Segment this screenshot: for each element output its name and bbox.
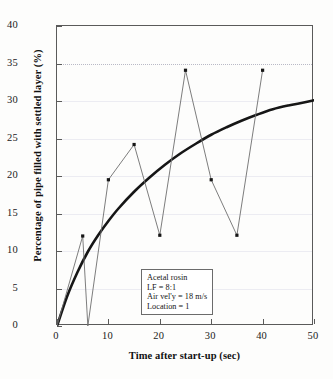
y-tick-20: [57, 176, 62, 177]
y-tick-25: [57, 139, 62, 140]
y-tick-15: [57, 214, 62, 215]
y-tick-label-0: 0: [0, 320, 18, 330]
y-tick-10: [57, 251, 62, 252]
y-tick-label-5: 5: [0, 283, 18, 293]
figure: Percentage of pipe filled with settled l…: [0, 0, 333, 379]
data-point-marker: [235, 234, 238, 237]
y-tick-label-10: 10: [0, 245, 18, 255]
y-tick-label-20: 20: [0, 170, 18, 180]
x-tick-label-50: 50: [293, 331, 333, 341]
data-point-marker: [184, 69, 187, 72]
x-tick-label-10: 10: [87, 331, 127, 341]
data-point-marker: [133, 143, 136, 146]
y-tick-label-40: 40: [0, 20, 18, 30]
data-point-marker: [81, 234, 84, 237]
x-tick-label-0: 0: [36, 331, 76, 341]
y-tick-label-25: 25: [0, 133, 18, 143]
x-tick-label-30: 30: [190, 331, 230, 341]
x-tick-label-40: 40: [242, 331, 282, 341]
x-axis-title: Time after start-up (sec): [56, 350, 313, 361]
data-point-marker: [210, 178, 213, 181]
annotation-line-3: Air vel'y = 18 m/s: [147, 292, 207, 302]
y-tick-label-15: 15: [0, 208, 18, 218]
y-axis-title: Percentage of pipe filled with settled l…: [32, 31, 43, 281]
data-point-marker: [158, 234, 161, 237]
x-tick-50: [314, 319, 315, 324]
x-tick-20: [160, 319, 161, 324]
conditions-annotation-box: Acetal rosinLF = 8:1Air vel'y = 18 m/sLo…: [141, 269, 213, 315]
x-tick-40: [263, 319, 264, 324]
annotation-line-1: Acetal rosin: [147, 273, 207, 283]
y-tick-label-30: 30: [0, 95, 18, 105]
y-tick-40: [57, 26, 62, 27]
y-tick-0: [57, 326, 62, 327]
x-tick-10: [108, 319, 109, 324]
x-tick-0: [57, 319, 58, 324]
data-point-marker: [107, 178, 110, 181]
x-tick-30: [211, 319, 212, 324]
annotation-line-4: Location = 1: [147, 302, 207, 312]
y-tick-label-35: 35: [0, 58, 18, 68]
y-tick-5: [57, 289, 62, 290]
x-tick-label-20: 20: [139, 331, 179, 341]
y-tick-35: [57, 64, 62, 65]
data-point-marker: [261, 69, 264, 72]
y-tick-30: [57, 101, 62, 102]
annotation-line-2: LF = 8:1: [147, 283, 207, 293]
